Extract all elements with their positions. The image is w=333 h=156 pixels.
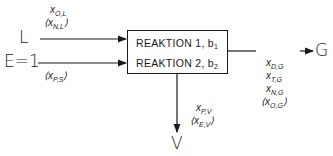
input-label-l: L [19,27,28,47]
annotation-x-p-v: xP,V [196,102,211,115]
reaction-1-label: REAKTION 1, b1 [136,37,218,50]
output-label-v: V [171,133,183,153]
input-label-e: E=1 [4,51,40,71]
annotation-x-p-s: ⟨xP,S⟩ [44,70,67,83]
annotation-x-t-g: xT,G [266,70,282,83]
output-label-g: G [315,40,328,60]
annotation-x-e-v: ⟨xE,V⟩ [190,115,214,128]
annotation-x-o-l: xO,L [50,4,66,17]
reaction-block: REAKTION 1, b1 REAKTION 2, b2 [127,30,228,74]
reaction-2-label: REAKTION 2, b2 [136,57,218,70]
annotation-x-o-g: ⟨xO,G⟩ [261,96,287,109]
annotation-x-n-l: ⟨xN,L⟩ [44,17,68,30]
annotation-x-d-g: xD,G [266,57,283,70]
annotation-x-n-g: xN,G [266,83,283,96]
